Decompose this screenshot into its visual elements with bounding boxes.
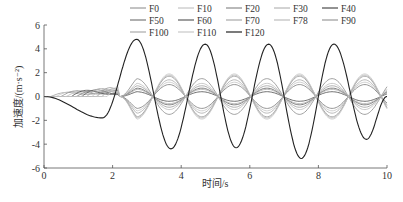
series-lines <box>44 39 387 158</box>
axes: 0246810-6-4-20246 <box>32 20 392 182</box>
y-tick-label: 6 <box>35 20 40 31</box>
legend-label: F78 <box>293 16 308 26</box>
y-tick-label: -2 <box>32 115 40 126</box>
legend-label: F90 <box>341 16 356 26</box>
y-tick-label: 2 <box>35 67 40 78</box>
legend-item-f50: F50 <box>130 16 164 26</box>
y-tick-label: -6 <box>32 163 40 174</box>
y-tick-label: 4 <box>35 43 40 54</box>
legend-label: F30 <box>293 4 308 14</box>
y-tick-label: 0 <box>35 91 40 102</box>
legend-item-f40: F40 <box>322 4 356 14</box>
legend-label: F20 <box>245 4 260 14</box>
legend-label: F100 <box>149 28 169 38</box>
legend-label: F0 <box>149 4 159 14</box>
y-tick-label: -4 <box>32 139 40 150</box>
x-tick-label: 6 <box>247 170 252 181</box>
legend-item-f70: F70 <box>226 16 260 26</box>
x-tick-label: 8 <box>316 170 321 181</box>
legend-item-f90: F90 <box>322 16 356 26</box>
legend-label: F60 <box>197 16 212 26</box>
legend-label: F40 <box>341 4 356 14</box>
legend-item-f78: F78 <box>274 16 308 26</box>
x-tick-label: 0 <box>42 170 47 181</box>
legend-item-f60: F60 <box>178 16 212 26</box>
y-axis-title: 加速度/(m·s⁻²) <box>12 66 25 129</box>
acceleration-time-chart: 0246810-6-4-20246 F0F10F20F30F40F50F60F7… <box>0 0 403 202</box>
legend-item-f20: F20 <box>226 4 260 14</box>
legend-label: F110 <box>197 28 216 38</box>
x-axis-title: 时间/s <box>202 177 229 189</box>
x-tick-label: 4 <box>179 170 184 181</box>
legend-item-f120: F120 <box>226 28 265 38</box>
legend-label: F120 <box>245 28 265 38</box>
legend-item-f110: F110 <box>178 28 216 38</box>
x-tick-label: 10 <box>382 170 392 181</box>
x-tick-label: 2 <box>110 170 115 181</box>
legend-label: F10 <box>197 4 212 14</box>
legend-label: F70 <box>245 16 260 26</box>
legend-item-f30: F30 <box>274 4 308 14</box>
legend-item-f10: F10 <box>178 4 212 14</box>
legend-label: F50 <box>149 16 164 26</box>
legend-item-f100: F100 <box>130 28 169 38</box>
legend: F0F10F20F30F40F50F60F70F78F90F100F110F12… <box>130 4 356 38</box>
legend-item-f0: F0 <box>130 4 159 14</box>
